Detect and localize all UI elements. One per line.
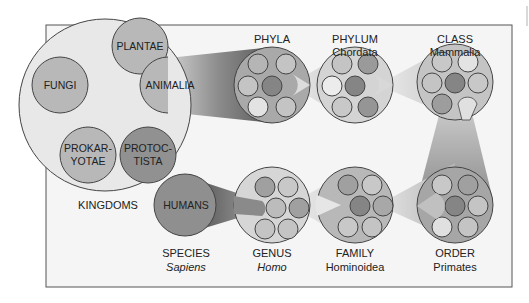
rank-label: ORDER [435,247,475,259]
rank-label: SPECIES [162,247,210,259]
rank-label: FAMILY [336,247,375,259]
taxon-name: Primates [433,261,477,273]
kingdom-label-line1: PROTOC- [124,142,173,154]
taxon-name: Chordata [332,46,378,58]
kingdom-label-line2: YOTAE [71,155,106,167]
kingdom-label-line2: TISTA [134,155,163,167]
humans-label: HUMANS [163,199,209,211]
kingdom-label: ANIMALIA [145,79,194,91]
taxon-name: Hominoidea [326,261,386,273]
taxon-name: Homo [257,261,286,273]
rank-label: GENUS [252,247,291,259]
rank-label: PHYLA [254,33,291,45]
kingdom-label: PLANTAE [116,40,163,52]
rank-species: HUMANS SPECIES Sapiens [154,174,216,273]
taxonomy-diagram: PLANTAE FUNGI ANIMALIA PROKAR- YOTAE PRO… [0,0,529,303]
rank-label: PHYLUM [332,33,378,45]
taxon-name: Mammalia [430,46,482,58]
kingdoms-label: KINGDOMS [78,199,138,211]
kingdom-fungi: FUNGI [32,57,88,113]
kingdom-label: FUNGI [44,79,77,91]
kingdom-protoctista: PROTOC- TISTA [120,127,176,183]
taxon-name: Sapiens [166,261,206,273]
kingdom-label-line1: PROKAR- [64,142,112,154]
kingdom-prokaryotae: PROKAR- YOTAE [60,127,116,183]
rank-label: CLASS [437,33,473,45]
